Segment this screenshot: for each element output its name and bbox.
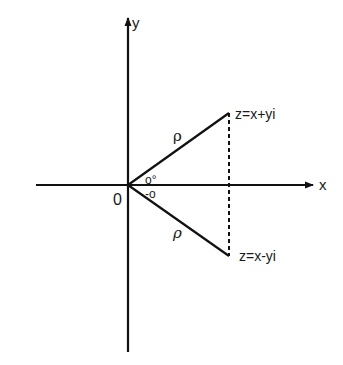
x-axis-label: x	[319, 176, 327, 193]
lower-angle-label: -o	[145, 187, 156, 201]
point-z-conjugate-label: z=x-yi	[239, 248, 276, 264]
upper-angle-label: o°	[145, 173, 157, 187]
y-axis-label: y	[132, 14, 140, 31]
upper-modulus-segment	[128, 113, 229, 185]
point-z-label: z=x+yi	[235, 106, 275, 122]
lower-rho-label: ρ	[172, 224, 182, 242]
lower-modulus-segment	[128, 185, 229, 256]
upper-rho-label: ρ	[173, 127, 182, 145]
complex-plane-diagram: y x 0 z=x+yi z=x-yi ρ ρ o° -o	[0, 0, 343, 365]
origin-label: 0	[113, 191, 122, 208]
